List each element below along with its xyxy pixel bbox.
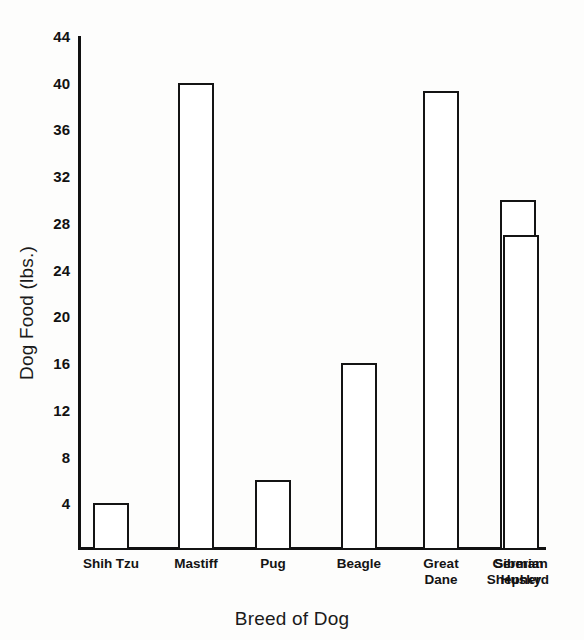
bar-mastiff (178, 83, 214, 550)
bar-chart: Dog Food (lbs.) 48121620242832364044 Shi… (0, 0, 584, 640)
bar-great-dane (423, 91, 459, 550)
y-tick-label: 4 (32, 496, 70, 511)
y-tick-label: 44 (32, 29, 70, 44)
y-tick-label: 28 (32, 215, 70, 230)
y-tick-label: 20 (32, 309, 70, 324)
y-tick-label: 12 (32, 402, 70, 417)
plot-area: 48121620242832364044 (78, 36, 546, 550)
y-tick-label: 8 (32, 449, 70, 464)
x-tick-label: Siberian Husky (471, 556, 571, 588)
bar-pug (255, 480, 291, 550)
y-tick-label: 32 (32, 169, 70, 184)
y-tick-label: 36 (32, 122, 70, 137)
y-tick-label: 24 (32, 262, 70, 277)
x-axis-title: Breed of Dog (0, 608, 584, 630)
bar-siberian-husky (503, 235, 539, 550)
x-tick-label: Pug (223, 556, 323, 572)
bar-series (78, 36, 546, 550)
bar-beagle (341, 363, 377, 550)
y-tick-label: 16 (32, 356, 70, 371)
x-axis-category-labels: Shih TzuMastiffPugBeagleGreat DaneGerman… (78, 556, 546, 608)
y-tick-label: 40 (32, 75, 70, 90)
bar-shih-tzu (93, 503, 129, 550)
